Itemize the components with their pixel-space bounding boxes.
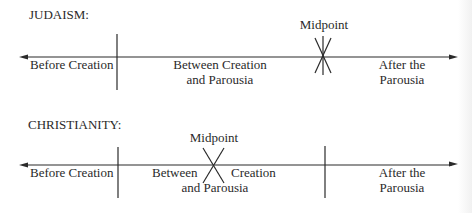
christianity-midpoint-label: Midpoint (184, 131, 244, 145)
judaism-between-label-line1: Between Creation (160, 58, 280, 72)
christianity-between-label-word1: Between (152, 166, 197, 180)
left-arrowhead-icon (19, 163, 28, 168)
judaism-before-creation-label: Before Creation (30, 58, 113, 72)
christianity-before-creation-label: Before Creation (30, 166, 113, 180)
judaism-between-label-line2: and Parousia (160, 73, 280, 87)
right-arrowhead-icon (449, 162, 458, 167)
midpoint-star-icon (315, 36, 331, 75)
left-arrowhead-icon (19, 55, 28, 60)
christianity-between-label-line2: and Parousia (165, 181, 265, 195)
right-arrowhead-icon (449, 55, 458, 60)
christianity-between-label-word2: Creation (231, 166, 276, 180)
christianity-after-label-line2: Parousia (362, 181, 442, 195)
christianity-after-label-line1: After the (362, 166, 442, 180)
judaism-after-label-line1: After the (362, 58, 442, 72)
judaism-after-label-line2: Parousia (362, 73, 442, 87)
judaism-midpoint-label: Midpoint (294, 18, 354, 32)
christianity-title: CHRISTIANITY: (28, 118, 121, 132)
judaism-title: JUDAISM: (29, 8, 89, 22)
